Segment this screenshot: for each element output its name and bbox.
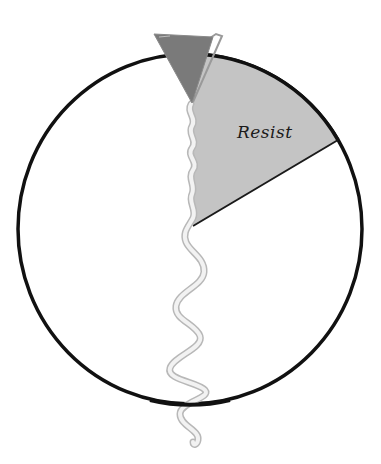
wedge-label: Resist [236,122,293,142]
wheel-diagram: Resist [0,0,381,464]
